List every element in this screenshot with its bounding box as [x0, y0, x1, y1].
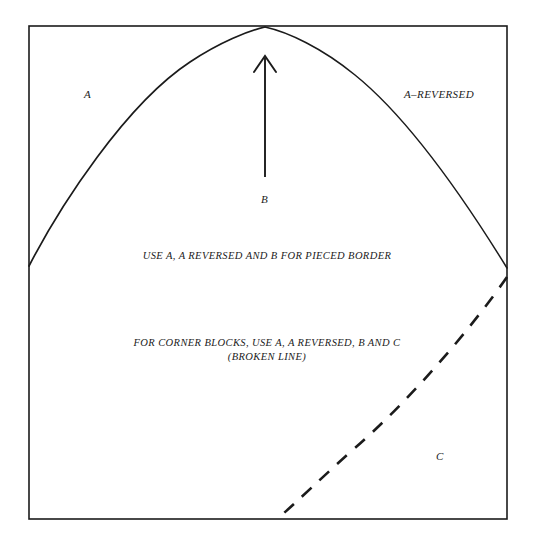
figure-canvas: A A–REVERSED B C USE A, A REVERSED AND B… [0, 0, 534, 553]
right-arc-curve [265, 27, 507, 268]
piece-label-a: A [84, 88, 91, 100]
piece-label-b: B [261, 193, 268, 205]
piece-label-c: C [436, 450, 444, 462]
left-arc-curve [29, 27, 265, 266]
instruction-pieced-border: USE A, A REVERSED AND B FOR PIECED BORDE… [0, 249, 534, 263]
instruction-corner-blocks-line2: (BROKEN LINE) [0, 350, 534, 364]
dashed-corner-curve [277, 277, 507, 519]
instruction-corner-blocks-line1: FOR CORNER BLOCKS, USE A, A REVERSED, B … [0, 336, 534, 350]
quilt-pattern-diagram [0, 0, 534, 553]
piece-label-a-reversed: A–REVERSED [404, 88, 474, 100]
instruction-corner-blocks: FOR CORNER BLOCKS, USE A, A REVERSED, B … [0, 336, 534, 364]
